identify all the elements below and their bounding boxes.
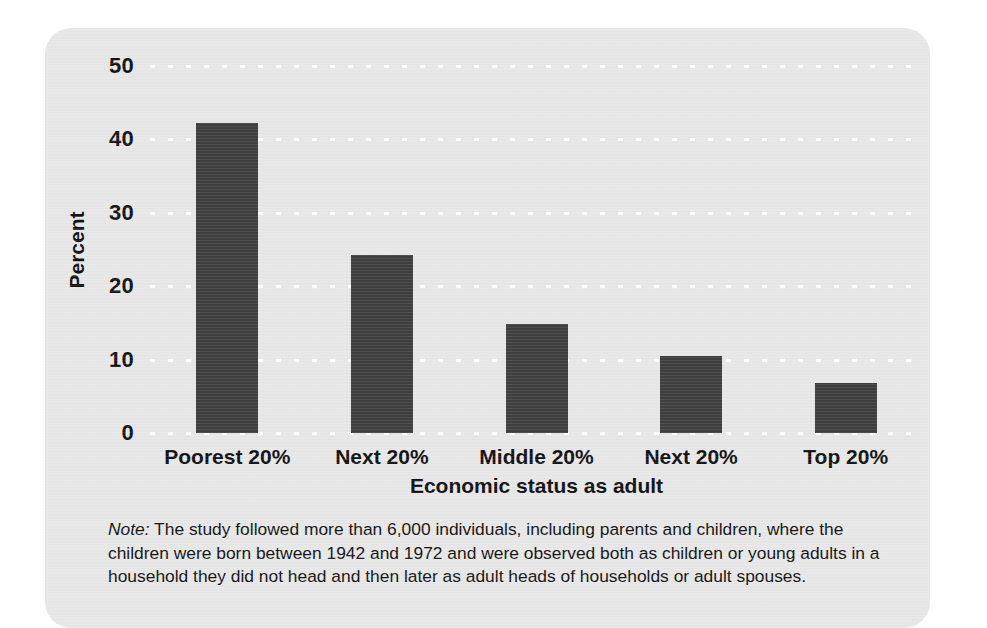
y-tick-label-20: 20 — [109, 273, 134, 299]
y-tick-label-0: 0 — [121, 420, 134, 446]
bars-layer — [150, 66, 923, 433]
note-text: The study followed more than 6,000 indiv… — [108, 519, 880, 586]
bar — [815, 383, 877, 433]
bar — [196, 123, 258, 433]
y-tick-label-10: 10 — [109, 347, 134, 373]
x-tick-label: Next 20% — [644, 445, 737, 469]
bar — [351, 255, 413, 433]
bar — [506, 324, 568, 433]
x-tick-label: Poorest 20% — [164, 445, 290, 469]
note-label: Note: — [108, 519, 150, 539]
figure-note: Note: The study followed more than 6,000… — [108, 518, 898, 589]
y-axis-title: Percent — [61, 66, 93, 433]
x-tick-label: Top 20% — [803, 445, 888, 469]
x-tick-label: Middle 20% — [479, 445, 593, 469]
bar — [660, 356, 722, 433]
y-tick-label-40: 40 — [109, 126, 134, 152]
figure-panel: Percent 01020304050 Poorest 20%Next 20%M… — [45, 28, 930, 628]
chart-plot-area: 01020304050 Poorest 20%Next 20%Middle 20… — [150, 66, 923, 433]
x-tick-label: Next 20% — [335, 445, 428, 469]
x-axis-title: Economic status as adult — [150, 474, 923, 498]
y-tick-label-30: 30 — [109, 200, 134, 226]
y-tick-label-50: 50 — [109, 53, 134, 79]
y-axis-title-label: Percent — [65, 211, 89, 288]
